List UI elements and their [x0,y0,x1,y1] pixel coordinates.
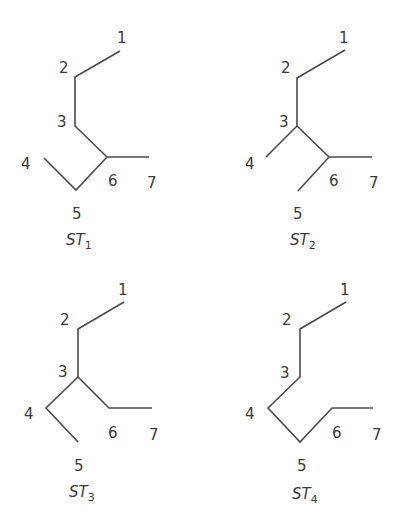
atom-number-label: 4 [245,405,255,423]
atom-number-label: 4 [245,155,255,173]
atom-number-label: 5 [72,205,82,223]
atom-number-label: 5 [293,205,303,223]
structure-title-subscript: 1 [85,239,92,252]
atom-number-label: 7 [372,426,382,444]
structure-title: ST4 [292,485,318,506]
structure-st1: 1234567ST1 [21,29,157,252]
structure-title-main: ST [290,231,311,249]
atom-number-label: 7 [149,426,159,444]
atom-number-label: 2 [282,311,292,329]
bond-chain [298,157,329,191]
atom-number-label: 3 [279,113,289,131]
bond-chain [75,51,149,157]
structure-title: ST1 [66,231,92,252]
structures-group: 1234567ST11234567ST21234567ST31234567ST4 [21,29,382,506]
structures-diagram: 1234567ST11234567ST21234567ST31234567ST4 [0,0,401,525]
structure-title: ST3 [69,483,95,504]
atom-number-label: 6 [108,424,118,442]
atom-number-label: 5 [297,457,307,475]
atom-number-label: 3 [280,364,290,382]
structure-title-main: ST [292,485,313,503]
bond-chain [46,377,78,442]
bond-chain [78,302,152,408]
atom-number-label: 6 [332,424,342,442]
structure-title-subscript: 3 [88,491,95,504]
structure-st3: 1234567ST3 [24,281,159,504]
atom-number-label: 4 [21,155,31,173]
atom-number-label: 5 [74,457,84,475]
atom-number-label: 6 [108,172,118,190]
bond-chain [297,50,372,157]
atom-number-label: 2 [59,59,69,77]
structure-title-main: ST [66,231,87,249]
structure-st2: 1234567ST2 [245,29,379,252]
atom-number-label: 3 [57,113,67,131]
atom-number-label: 1 [340,281,350,299]
structure-title-main: ST [69,483,90,501]
atom-number-label: 7 [147,174,157,192]
structure-title-subscript: 4 [311,493,318,506]
bond-chain [44,157,107,190]
atom-number-label: 1 [339,29,349,47]
atom-number-label: 1 [117,29,127,47]
atom-number-label: 4 [24,405,34,423]
structure-title: ST2 [290,231,316,252]
atom-number-label: 3 [58,363,68,381]
structure-st4: 1234567ST4 [245,281,382,506]
atom-number-label: 7 [369,174,379,192]
structure-title-subscript: 2 [309,239,316,252]
atom-number-label: 2 [281,59,291,77]
atom-number-label: 1 [118,281,128,299]
atom-number-label: 2 [60,311,70,329]
atom-number-label: 6 [329,172,339,190]
